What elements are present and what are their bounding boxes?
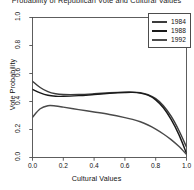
chart-figure: Probability of Republican Vote and Cultu… xyxy=(0,0,193,190)
series-line-1992 xyxy=(33,106,187,155)
legend-item: 1988 xyxy=(152,26,186,35)
series-group xyxy=(33,81,187,154)
legend-item: 1984 xyxy=(152,17,186,26)
chart-legend: 198419881992 xyxy=(148,13,191,48)
legend-label: 1992 xyxy=(171,35,186,44)
x-tick-label: 0.8 xyxy=(144,162,168,169)
x-tick-label: 0.6 xyxy=(113,162,137,169)
y-tick-label: 0.2 xyxy=(14,118,21,140)
x-tick-label: 0.4 xyxy=(82,162,106,169)
y-tick-label: 0.8 xyxy=(14,34,21,56)
legend-label: 1984 xyxy=(171,17,186,26)
y-tick-label: 0.4 xyxy=(14,90,21,112)
y-tick-label: 0.0 xyxy=(14,146,21,168)
y-tick-label: 0.6 xyxy=(14,62,21,84)
legend-line-swatch xyxy=(152,39,167,41)
series-line-1988 xyxy=(33,89,187,153)
legend-line-swatch xyxy=(152,21,167,23)
x-axis-label: Cultural Values xyxy=(0,174,193,183)
x-tick-label: 0.2 xyxy=(51,162,75,169)
legend-line-swatch xyxy=(152,30,167,32)
legend-item: 1992 xyxy=(152,35,186,44)
y-tick-label: 1.0 xyxy=(14,6,21,28)
x-tick-label: 1.0 xyxy=(175,162,194,169)
x-tick-label: 0.0 xyxy=(21,162,45,169)
legend-label: 1988 xyxy=(171,26,186,35)
